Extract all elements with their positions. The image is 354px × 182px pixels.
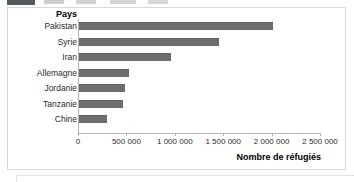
value-axis-title: Nombre de réfugiés	[236, 152, 321, 162]
bar	[79, 100, 123, 108]
axis-tick-mark	[320, 133, 321, 136]
axis-tick-mark	[223, 133, 224, 136]
category-label: Pakistan	[0, 21, 77, 31]
axis-tick-mark	[175, 133, 176, 136]
category-axis-title: Pays	[0, 9, 77, 19]
value-axis-line	[78, 133, 321, 134]
axis-tick-mark	[126, 133, 127, 136]
category-label: Jordanie	[0, 83, 77, 93]
bar	[79, 115, 107, 123]
bar	[79, 69, 129, 77]
bar	[79, 38, 219, 46]
category-label: Tanzanie	[0, 99, 77, 109]
axis-tick-label: 2 500 000	[280, 137, 354, 147]
bar	[79, 22, 273, 30]
category-label: Allemagne	[0, 68, 77, 78]
axis-tick-mark	[272, 133, 273, 136]
page-divider-rule	[16, 175, 354, 176]
page-divider-tick	[16, 175, 17, 182]
bar	[79, 84, 125, 92]
bar	[79, 53, 171, 61]
category-label: Syrie	[0, 37, 77, 47]
category-label: Chine	[0, 114, 77, 124]
category-label: Iran	[0, 52, 77, 62]
horizontal-bar-chart: Pays PakistanSyrieIranAllemagneJordanieT…	[0, 0, 354, 182]
axis-tick-mark	[78, 133, 79, 136]
